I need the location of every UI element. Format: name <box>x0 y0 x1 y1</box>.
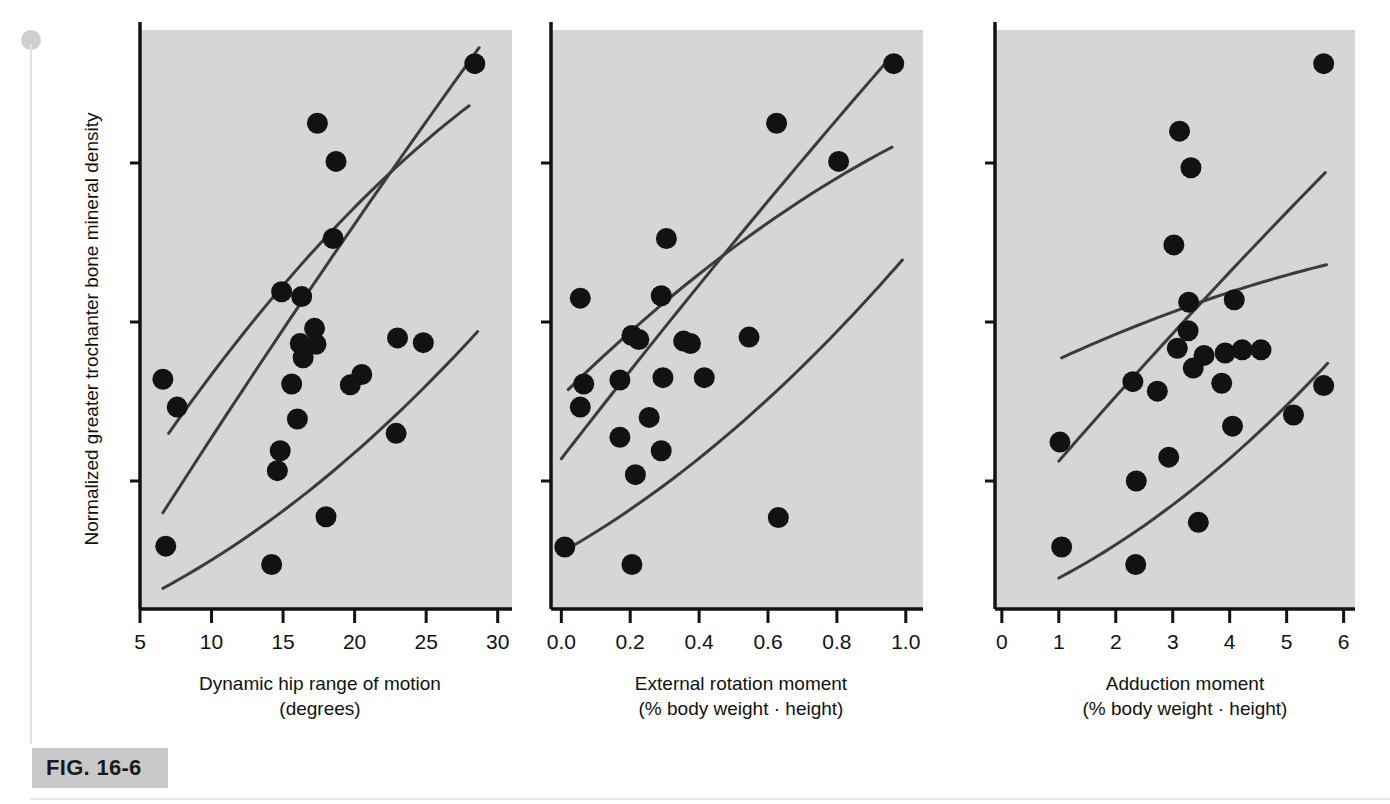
x-tick-label: 0.0 <box>547 630 576 650</box>
data-point <box>293 347 314 368</box>
x-tick-label: 20 <box>343 630 366 650</box>
data-point <box>680 333 701 354</box>
data-point <box>828 151 849 172</box>
data-point <box>1188 512 1209 533</box>
data-point <box>609 427 630 448</box>
data-point <box>281 374 302 395</box>
data-point <box>155 536 176 557</box>
x-tick-label: 0.6 <box>753 630 782 650</box>
x-tick-label: 2 <box>1110 630 1122 650</box>
data-point <box>768 507 789 528</box>
panel-adduction-moment: 20-20123456 <box>985 0 1375 650</box>
data-point <box>413 332 434 353</box>
x-tick-label: 0.8 <box>822 630 851 650</box>
data-point <box>326 151 347 172</box>
x-axis-label-panel-3: Adduction moment(% body weight · height) <box>985 672 1385 721</box>
data-point <box>152 369 173 390</box>
panel-external-rotation-moment: 20-20.00.20.40.60.81.0 <box>541 0 943 650</box>
x-tick-label: 6 <box>1338 630 1350 650</box>
data-point <box>1313 375 1334 396</box>
y-axis-label: Normalized greater trochanter bone miner… <box>81 29 103 629</box>
left-margin-rule <box>30 44 32 744</box>
data-point <box>766 113 787 134</box>
x-tick-label: 4 <box>1224 630 1236 650</box>
data-point <box>1147 381 1168 402</box>
data-point <box>1163 234 1184 255</box>
x-tick-label: 0.4 <box>685 630 715 650</box>
data-point <box>625 464 646 485</box>
data-point <box>570 288 591 309</box>
data-point <box>1180 157 1201 178</box>
data-point <box>1251 339 1272 360</box>
x-tick-label: 25 <box>414 630 437 650</box>
data-point <box>570 397 591 418</box>
x-tick-label: 0.2 <box>616 630 645 650</box>
figure-number-label: FIG. 16-6 <box>32 755 142 781</box>
x-axis-units: (degrees) <box>130 697 510 722</box>
bottom-margin-rule <box>30 798 1390 800</box>
data-point <box>1222 416 1243 437</box>
data-point <box>323 228 344 249</box>
data-point <box>307 113 328 134</box>
data-point <box>386 423 407 444</box>
plot-background <box>995 30 1355 609</box>
figure-number-chip: FIG. 16-6 <box>32 748 168 788</box>
x-tick-label: 3 <box>1167 630 1179 650</box>
data-point <box>271 281 292 302</box>
data-point <box>291 286 312 307</box>
data-point <box>1169 121 1190 142</box>
data-point <box>609 370 630 391</box>
data-point <box>1178 292 1199 313</box>
data-point <box>1232 339 1253 360</box>
data-point <box>651 285 672 306</box>
data-point <box>656 228 677 249</box>
x-axis-title: Dynamic hip range of motion <box>130 672 510 697</box>
data-point <box>1313 53 1334 74</box>
x-axis-units: (% body weight · height) <box>985 697 1385 722</box>
panel-dynamic-hip-range: 20-251015202530 <box>130 0 532 650</box>
x-tick-label: 0 <box>996 630 1008 650</box>
data-point <box>270 440 291 461</box>
plot-background <box>551 30 923 609</box>
data-point <box>1051 536 1072 557</box>
data-point <box>573 374 594 395</box>
data-point <box>739 327 760 348</box>
data-point <box>1283 405 1304 426</box>
data-point <box>1125 554 1146 575</box>
data-point <box>1158 447 1179 468</box>
data-point <box>554 536 575 557</box>
data-point <box>651 440 672 461</box>
data-point <box>1178 320 1199 341</box>
figure-page: Normalized greater trochanter bone miner… <box>0 0 1390 804</box>
x-axis-label-panel-2: External rotation moment(% body weight ·… <box>541 672 941 721</box>
data-point <box>267 460 288 481</box>
x-tick-label: 30 <box>486 630 509 650</box>
data-point <box>1183 358 1204 379</box>
data-point <box>387 327 408 348</box>
x-tick-label: 15 <box>271 630 294 650</box>
data-point <box>1224 289 1245 310</box>
data-point <box>1167 338 1188 359</box>
data-point <box>261 554 282 575</box>
x-tick-label: 1.0 <box>891 630 920 650</box>
x-tick-label: 5 <box>1281 630 1293 650</box>
data-point <box>1049 432 1070 453</box>
data-point <box>694 367 715 388</box>
x-axis-title: Adduction moment <box>985 672 1385 697</box>
x-tick-label: 10 <box>200 630 223 650</box>
x-axis-label-panel-1: Dynamic hip range of motion(degrees) <box>130 672 510 721</box>
data-point <box>621 554 642 575</box>
data-point <box>464 53 485 74</box>
x-axis-title: External rotation moment <box>541 672 941 697</box>
x-axis-units: (% body weight · height) <box>541 697 941 722</box>
data-point <box>1211 373 1232 394</box>
data-point <box>628 329 649 350</box>
data-point <box>1126 471 1147 492</box>
data-point <box>340 374 361 395</box>
data-point <box>1122 371 1143 392</box>
data-point <box>316 506 337 527</box>
data-point <box>287 408 308 429</box>
data-point <box>652 367 673 388</box>
data-point <box>639 407 660 428</box>
x-tick-label: 5 <box>134 630 146 650</box>
